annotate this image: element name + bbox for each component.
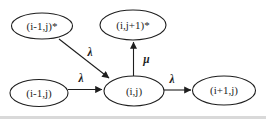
node-bottom-mid: (i,j) xyxy=(104,76,164,106)
state-transition-diagram: λ λ μ λ (i-1,j)* (i,j+1)* (i-1,j) (i,j) xyxy=(0,0,266,119)
bottom-edge-artifact xyxy=(0,116,266,119)
node-bottom-left-label: (i-1,j) xyxy=(26,87,52,100)
edge-label-right-lambda: λ xyxy=(168,73,174,85)
edge-label-left-lambda: λ xyxy=(77,72,83,84)
node-bottom-mid-label: (i,j) xyxy=(126,85,143,98)
node-top-left-label: (i-1,j)* xyxy=(27,20,58,33)
node-top-mid: (i,j+1)* xyxy=(100,10,166,40)
node-bottom-right: (i+1,j) xyxy=(193,76,256,105)
node-top-left: (i-1,j)* xyxy=(12,13,73,39)
edge-label-up-mu: μ xyxy=(142,53,150,66)
node-bottom-right-label: (i+1,j) xyxy=(210,84,238,97)
diagram-canvas: λ λ μ λ (i-1,j)* (i,j+1)* (i-1,j) (i,j) xyxy=(0,0,266,119)
node-bottom-left: (i-1,j) xyxy=(10,80,68,107)
edge-label-diagonal-lambda: λ xyxy=(86,46,92,58)
node-top-mid-label: (i,j+1)* xyxy=(116,19,149,32)
